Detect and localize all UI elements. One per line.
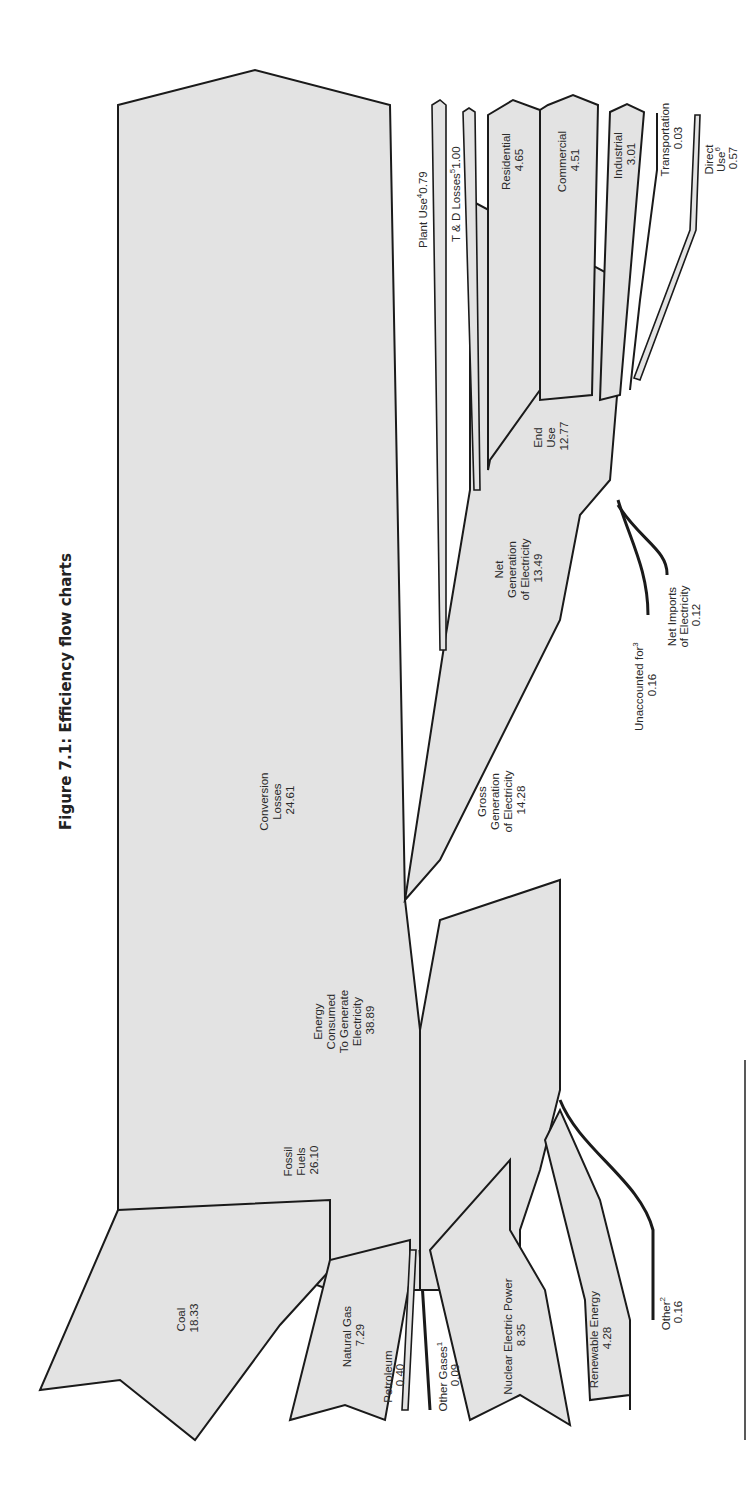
label-commercial: Commercial	[556, 131, 568, 192]
value-commercial: 4.51	[569, 149, 581, 171]
label-plant-use: Plant Use	[417, 198, 429, 248]
label-netimports-1: Net Imports	[666, 587, 678, 647]
svg-text:T & D Losses51.00: T & D Losses51.00	[448, 146, 462, 242]
value-petroleum: 0.40	[394, 1364, 406, 1386]
svg-text:Unaccounted for3 0.16: Unaccounted for3 0.16	[628, 639, 658, 731]
value-industrial: 3.01	[625, 143, 637, 165]
value-net: 13.49	[532, 554, 544, 583]
label-other-gases: Other Gases	[437, 1346, 449, 1411]
sup-direct: 6	[713, 147, 722, 152]
value-gross: 14.28	[515, 786, 527, 815]
label-transportation: Transportation	[659, 103, 671, 177]
value-energy: 38.89	[364, 1006, 376, 1035]
label-energy-1: Energy	[312, 1003, 324, 1040]
value-coal: 18.33	[188, 1304, 200, 1333]
label-natural-gas: Natural Gas	[341, 1306, 353, 1368]
value-other-gases: 0.09	[449, 1364, 461, 1386]
label-gross-1: Gross	[476, 786, 488, 817]
label-td: T & D Losses	[450, 173, 462, 242]
label-petroleum: Petroleum	[382, 1350, 394, 1402]
svg-text:Net Imports of Electrici: Net Imports of Electricity 0.12	[666, 582, 702, 647]
label-residential: Residential	[500, 133, 512, 190]
value-transportation: 0.03	[672, 127, 684, 149]
sankey-figure: Figure 7.1: Efficiency flow charts Conve	[0, 0, 747, 1490]
label-enduse-2: Use	[545, 427, 557, 447]
svg-text:Coal 18.33: Coal 18.33	[175, 1304, 200, 1333]
label-gross-3: of Electricity	[502, 770, 514, 832]
sup-other-gases: 1	[435, 1341, 444, 1346]
value-renewable: 4.28	[601, 1327, 613, 1349]
value-other: 0.16	[672, 1301, 684, 1323]
flow-net-imports	[618, 505, 667, 575]
label-netimports-2: of Electricity	[678, 585, 690, 647]
label-conversion-losses-1: Conversion	[258, 773, 270, 831]
svg-text:End Use 12.77: End Use 12.77	[532, 422, 570, 451]
value-fossil: 26.10	[308, 1146, 320, 1175]
flow-unaccounted	[618, 500, 648, 615]
label-direct-2: Use	[715, 152, 727, 172]
value-unaccounted: 0.16	[646, 674, 658, 696]
value-nuclear: 8.35	[515, 1324, 527, 1346]
svg-text:Fossil Fuels 26.10: Fossil Fuels 26.10	[282, 1143, 320, 1176]
label-fossil-1: Fossil	[282, 1147, 294, 1177]
label-energy-4: Electricity	[351, 997, 363, 1046]
label-fossil-2: Fuels	[295, 1147, 307, 1175]
svg-text:Other2 0.16: Other2 0.16	[655, 1294, 684, 1330]
svg-text:Gross Generation o: Gross Generation of Electricity 14.28	[476, 767, 527, 832]
value-netimports: 0.12	[690, 604, 702, 626]
value-plant-use: 0.79	[417, 171, 429, 193]
sup-other: 2	[658, 1296, 667, 1301]
value-natural-gas: 7.29	[354, 1324, 366, 1346]
label-renewable: Renewable Energy	[588, 1291, 600, 1388]
label-energy-2: Consumed	[325, 994, 337, 1050]
svg-text:Plant Use40.79: Plant Use40.79	[415, 171, 429, 248]
label-net-1: Net	[493, 560, 505, 579]
label-coal: Coal	[175, 1308, 187, 1332]
sup-unaccounted: 3	[631, 642, 640, 647]
label-unaccounted: Unaccounted for	[633, 646, 645, 731]
label-net-3: of Electricity	[519, 538, 531, 600]
label-enduse-1: End	[532, 427, 544, 447]
value-residential: 4.65	[513, 149, 525, 171]
flow-commercial	[540, 95, 598, 400]
flow-conversion-losses	[118, 70, 420, 1290]
svg-text:Direct Use6 0.57: Direct Use6 0.57	[703, 141, 739, 174]
label-net-2: Generation	[506, 541, 518, 598]
label-energy-3: To Generate	[338, 990, 350, 1053]
label-gross-2: Generation	[489, 773, 501, 830]
svg-text:Transportation 0.03: Transportation 0.03	[659, 100, 684, 177]
value-td: 1.00	[450, 146, 462, 168]
value-direct: 0.57	[727, 147, 739, 169]
label-nuclear: Nuclear Electric Power	[502, 1278, 514, 1394]
value-enduse: 12.77	[558, 422, 570, 451]
label-conversion-losses-2: Losses	[271, 783, 283, 820]
figure-title: Figure 7.1: Efficiency flow charts	[57, 553, 75, 830]
value-conversion-losses: 24.61	[284, 786, 296, 815]
flow-plant-use	[432, 100, 446, 650]
label-industrial: Industrial	[612, 132, 624, 179]
label-other: Other	[660, 1301, 672, 1330]
